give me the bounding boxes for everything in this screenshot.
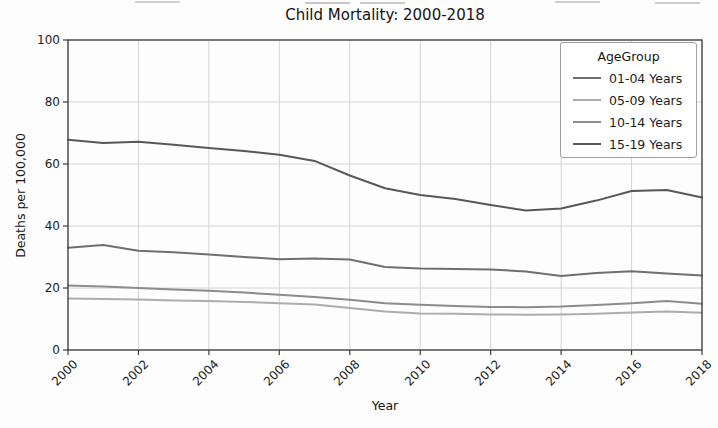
legend-title: AgeGroup: [567, 46, 690, 67]
legend-entry-label: 01-04 Years: [609, 71, 682, 86]
legend-entry: 01-04 Years: [567, 67, 690, 89]
series-line-10-14-years: [68, 286, 702, 308]
y-tick-label: 80: [26, 95, 60, 110]
legend-entry-label: 10-14 Years: [609, 115, 682, 130]
chart-figure: Child Mortality: 2000-2018 Deaths per 10…: [0, 0, 718, 428]
y-tick-label: 20: [26, 281, 60, 296]
legend-entries: 01-04 Years05-09 Years10-14 Years15-19 Y…: [567, 67, 690, 155]
legend-line-swatch: [573, 99, 601, 101]
y-tick-label: 100: [26, 33, 60, 48]
legend-line-swatch: [573, 77, 601, 79]
legend-entry-label: 15-19 Years: [609, 137, 682, 152]
y-tick-label: 0: [26, 343, 60, 358]
legend-entry: 10-14 Years: [567, 111, 690, 133]
series-line-01-04-years: [68, 245, 702, 276]
y-tick-label: 60: [26, 157, 60, 172]
legend-line-swatch: [573, 121, 601, 123]
y-tick-label: 40: [26, 219, 60, 234]
legend-entry: 05-09 Years: [567, 89, 690, 111]
x-axis-label: Year: [68, 398, 702, 413]
series-line-05-09-years: [68, 299, 702, 315]
legend-line-swatch: [573, 143, 601, 145]
legend-entry: 15-19 Years: [567, 133, 690, 155]
legend-entry-label: 05-09 Years: [609, 93, 682, 108]
legend: AgeGroup 01-04 Years05-09 Years10-14 Yea…: [560, 42, 697, 158]
